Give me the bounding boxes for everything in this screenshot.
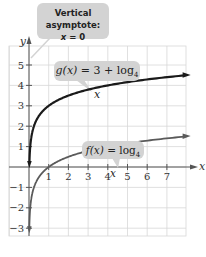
y-tick-label: 4 (18, 80, 24, 91)
g-curve-arrow (183, 72, 191, 78)
x-tick-label: 2 (65, 171, 71, 182)
y-tick-label: 5 (18, 60, 24, 71)
f-var: x (110, 167, 116, 179)
y-axis-label: y (19, 35, 27, 48)
g-eq: = 3 + log (77, 64, 134, 77)
y-tick-label: −3 (9, 223, 24, 234)
asymptote-eq: = 0 (66, 32, 85, 42)
y-tick-label: 3 (18, 100, 24, 111)
g-base: 4 (134, 71, 138, 79)
y-tick-label: −2 (9, 202, 24, 213)
f-curve-start-arrow (27, 226, 32, 233)
g-var: x (94, 88, 100, 101)
x-tick-label: 7 (164, 171, 170, 182)
x-tick-label: 6 (144, 171, 150, 182)
asymptote-callout: Vertical asymptote: x = 0 (37, 3, 109, 39)
x-tick-label: 1 (46, 171, 52, 182)
asymptote-label: Vertical asymptote: (37, 7, 109, 31)
x-tick-label: 5 (124, 171, 130, 182)
g-function-label: g(x) = 3 + log4 x (54, 61, 140, 81)
y-tick-label: 1 (18, 141, 24, 152)
f-base: 4 (136, 151, 140, 159)
x-axis-label: x (199, 160, 206, 173)
f-curve-arrow (183, 133, 191, 139)
y-tick-label: −1 (9, 182, 24, 193)
x-tick-label: 3 (85, 171, 91, 182)
f-name: f(x) (86, 144, 104, 156)
y-tick-label: 2 (18, 121, 24, 132)
f-function-label: f(x) = log4 x (82, 141, 144, 159)
f-eq: = log (104, 144, 136, 156)
g-name: g(x) (56, 64, 78, 77)
